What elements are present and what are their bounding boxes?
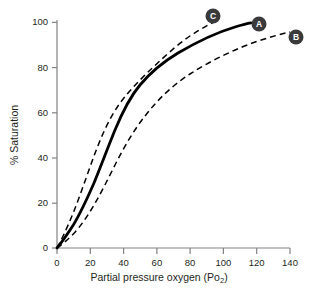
y-tick-label-80: 80 [26,63,48,73]
y-tick-label-100: 100 [26,18,48,28]
curve-a-normal [57,23,251,248]
x-tick-label-80: 80 [185,258,196,268]
curve-marker-b: B [289,30,304,45]
x-axis-ticks [57,248,290,254]
curve-c-left-shifted [57,20,220,249]
y-tick-label-40: 40 [26,153,48,163]
y-tick-label-20: 20 [26,198,48,208]
y-axis-title: % Saturation [9,105,20,165]
x-tick-label-140: 140 [282,258,298,268]
x-tick-label-120: 120 [249,258,265,268]
x-axis-title-tail: ) [224,271,228,283]
curve-b-right-shifted [57,32,290,248]
y-tick-label-0: 0 [26,243,48,253]
curve-marker-c: C [206,9,221,24]
x-axis-title: Partial pressure oxygen (Po2) [0,272,318,285]
x-tick-label-0: 0 [54,258,59,268]
x-tick-label-100: 100 [215,258,231,268]
y-tick-label-60: 60 [26,108,48,118]
y-axis-ticks [52,22,57,248]
oxygen-dissociation-chart: 100 80 60 40 20 0 0 20 40 60 80 100 120 … [0,0,318,293]
curve-marker-a: A [252,17,267,32]
x-tick-label-20: 20 [85,258,96,268]
x-axis-title-main: Partial pressure oxygen (Po [90,271,220,283]
x-tick-label-40: 40 [118,258,129,268]
x-tick-label-60: 60 [152,258,163,268]
